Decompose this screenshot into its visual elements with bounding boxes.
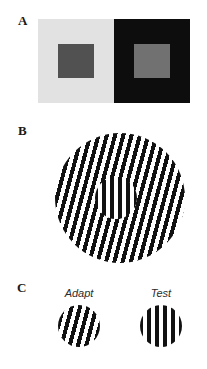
contrast-field-light [38,19,114,103]
panel-a-simultaneous-contrast [38,19,190,103]
panel-letter-a: A [18,14,27,27]
test-grating-disc [140,305,182,347]
contrast-patch-on-light [58,44,94,78]
test-stimulus: Test [130,288,192,347]
panel-letter-c: C [17,281,26,294]
panel-letter-b: B [18,124,27,137]
center-grating-disc [95,177,137,219]
contrast-field-dark [114,19,190,103]
test-grating-stripes [140,305,182,347]
contrast-patch-on-dark [134,44,170,78]
adapt-label: Adapt [48,288,110,299]
adapt-grating-disc [58,305,100,347]
adapt-stimulus: Adapt [48,288,110,347]
center-grating-stripes [95,177,137,219]
panel-b-tilt-illusion [55,133,185,263]
figure-canvas: A B C Adapt Test [0,0,207,369]
test-label: Test [130,288,192,299]
panel-c-adaptation: Adapt Test [38,288,198,364]
adapt-grating-stripes [58,305,100,347]
